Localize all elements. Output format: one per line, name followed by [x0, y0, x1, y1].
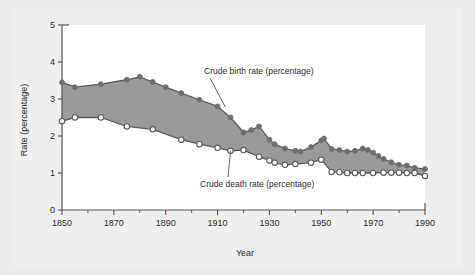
birth-rate-marker — [228, 115, 233, 120]
birth-rate-annotation: Crude birth rate (percentage) — [204, 66, 314, 76]
birth-rate-marker — [137, 74, 142, 79]
x-tick-label: 1930 — [259, 218, 279, 228]
birth-rate-marker — [371, 150, 376, 155]
birth-rate-marker — [404, 163, 409, 168]
y-tick-label: 3 — [50, 94, 55, 104]
death-rate-marker — [124, 124, 129, 129]
y-tick-label: 2 — [50, 131, 55, 141]
birth-rate-marker — [249, 128, 254, 133]
birth-rate-marker — [298, 149, 303, 154]
death-rate-marker — [412, 170, 417, 175]
birth-rate-marker — [321, 136, 326, 141]
death-rate-marker — [396, 170, 401, 175]
death-rate-marker — [308, 160, 313, 165]
y-tick-label: 5 — [50, 20, 55, 30]
x-tick-label: 1990 — [415, 218, 435, 228]
x-tick-label: 1970 — [363, 218, 383, 228]
y-tick-label: 1 — [50, 168, 55, 178]
birth-rate-marker — [381, 156, 386, 161]
birth-rate-marker — [163, 85, 168, 90]
death-rate-marker — [59, 119, 64, 124]
birth-rate-marker — [272, 142, 277, 147]
death-rate-marker — [329, 169, 334, 174]
death-rate-marker — [337, 170, 342, 175]
x-tick-label: 1910 — [208, 218, 228, 228]
birth-rate-marker — [257, 124, 262, 129]
birth-rate-marker — [293, 148, 298, 153]
birth-rate-marker — [352, 148, 357, 153]
birth-rate-marker — [337, 148, 342, 153]
birth-rate-marker — [267, 137, 272, 142]
x-tick-label: 1950 — [311, 218, 331, 228]
death-rate-marker — [179, 137, 184, 142]
death-rate-marker — [215, 145, 220, 150]
death-rate-marker — [150, 127, 155, 132]
death-rate-marker — [381, 170, 386, 175]
crude-birth-death-rate-chart: 01234518501870189019101930195019701990 C… — [13, 8, 462, 266]
birth-rate-marker — [197, 97, 202, 102]
y-tick-label: 0 — [50, 205, 55, 215]
birth-rate-marker — [72, 85, 77, 90]
birth-rate-marker — [345, 149, 350, 154]
y-tick-label: 4 — [50, 57, 55, 67]
death-rate-marker — [404, 170, 409, 175]
death-rate-marker — [360, 170, 365, 175]
x-axis-label: Year — [236, 248, 254, 258]
y-axis-label: Rate (percentage) — [19, 84, 29, 157]
birth-rate-marker — [308, 145, 313, 150]
birth-rate-marker — [360, 146, 365, 151]
x-tick-label: 1870 — [104, 218, 124, 228]
birth-rate-marker — [241, 130, 246, 135]
birth-rate-marker — [60, 80, 65, 85]
death-rate-marker — [272, 160, 277, 165]
birth-rate-marker — [397, 162, 402, 167]
chart-figure: 01234518501870189019101930195019701990 C… — [0, 0, 475, 275]
death-rate-marker — [370, 170, 375, 175]
birth-rate-marker — [282, 146, 287, 151]
death-rate-marker — [422, 173, 427, 178]
death-rate-marker — [293, 161, 298, 166]
birth-rate-marker — [98, 82, 103, 87]
birth-rate-marker — [124, 77, 129, 82]
death-rate-marker — [241, 147, 246, 152]
death-rate-annotation: Crude death rate (percentage) — [200, 179, 315, 189]
birth-rate-marker — [365, 148, 370, 153]
death-rate-marker — [98, 115, 103, 120]
death-rate-marker — [267, 158, 272, 163]
death-rate-marker — [352, 170, 357, 175]
death-rate-marker — [256, 154, 261, 159]
death-rate-marker — [345, 170, 350, 175]
chart-panel: 01234518501870189019101930195019701990 C… — [13, 8, 462, 266]
birth-rate-marker — [329, 146, 334, 151]
death-rate-marker — [319, 157, 324, 162]
birth-rate-marker — [215, 104, 220, 109]
x-tick-label: 1850 — [52, 218, 72, 228]
birth-rate-marker — [150, 79, 155, 84]
birth-rate-marker — [376, 153, 381, 158]
birth-rate-marker — [179, 91, 184, 96]
death-rate-marker — [389, 170, 394, 175]
birth-rate-marker — [412, 165, 417, 170]
death-rate-marker — [197, 141, 202, 146]
birth-rate-marker — [423, 166, 428, 171]
death-rate-marker — [72, 115, 77, 120]
x-tick-label: 1890 — [156, 218, 176, 228]
birth-rate-marker — [389, 160, 394, 165]
death-rate-marker — [282, 162, 287, 167]
